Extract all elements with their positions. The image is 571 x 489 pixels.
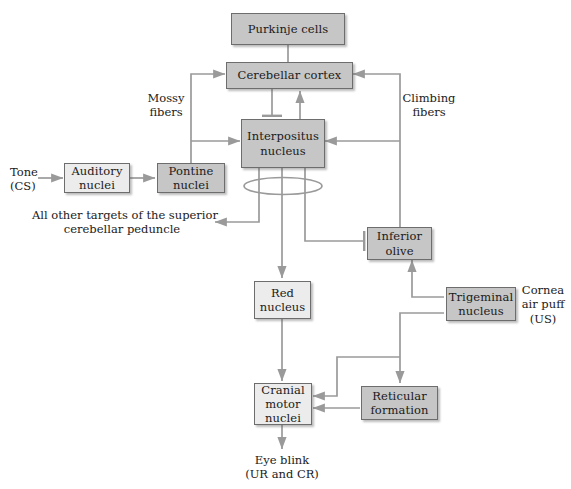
label-cornea-air-puff: Cornea air puff (US): [519, 283, 567, 326]
label-climbing-fibers-line1: Climbing: [398, 91, 460, 105]
node-pontine-nuclei-label-line1: Pontine: [166, 164, 217, 178]
node-reticular-formation-label-line1: Reticular: [369, 389, 430, 403]
label-other-targets: All other targets of the superior cerebe…: [32, 208, 212, 237]
node-purkinje-cells-label: Purkinje cells: [245, 22, 332, 36]
node-cranial-motor-nuclei-label-line3: nuclei: [262, 411, 304, 425]
node-cerebellar-cortex-label: Cerebellar cortex: [235, 68, 345, 82]
label-cornea-air-puff-line2: air puff: [519, 297, 567, 311]
node-reticular-formation-label-line2: formation: [368, 403, 432, 417]
node-inferior-olive-label-line1: Inferior: [374, 229, 425, 243]
edge-trigeminal-to-inferior-olive: [412, 260, 444, 297]
label-tone-cs-line1: Tone: [10, 165, 40, 179]
label-other-targets-line2: cerebellar peduncle: [32, 222, 212, 236]
label-cornea-air-puff-line1: Cornea: [519, 283, 567, 297]
label-other-targets-line1: All other targets of the superior: [32, 208, 212, 222]
label-climbing-fibers: Climbing fibers: [398, 91, 460, 120]
label-eye-blink-line2: (UR and CR): [222, 467, 342, 481]
node-red-nucleus-label-line1: Red: [268, 286, 297, 300]
label-eye-blink: Eye blink (UR and CR): [222, 453, 342, 482]
node-cranial-motor-nuclei[interactable]: Cranial motor nuclei: [254, 383, 312, 425]
edge-pontine-mossy-trunk: [191, 74, 225, 163]
label-mossy-fibers: Mossy fibers: [140, 91, 192, 120]
label-cornea-air-puff-line3: (US): [519, 312, 567, 326]
node-inferior-olive[interactable]: Inferior olive: [367, 227, 432, 260]
node-trigeminal-nucleus[interactable]: Trigeminal nucleus: [446, 287, 516, 321]
node-cerebellar-cortex[interactable]: Cerebellar cortex: [226, 62, 353, 89]
decussation-ellipse: [244, 178, 322, 195]
node-auditory-nuclei-label-line1: Auditory: [68, 164, 125, 178]
label-tone-cs-line2: (CS): [10, 179, 40, 193]
node-interpositus-nucleus-label-line1: Interpositus: [244, 129, 322, 143]
node-interpositus-nucleus-label-line2: nucleus: [257, 144, 309, 158]
node-reticular-formation[interactable]: Reticular formation: [361, 386, 438, 420]
diagram-canvas: Purkinje cells Cerebellar cortex Interpo…: [0, 0, 571, 489]
edge-trigeminal-to-reticular: [400, 313, 444, 383]
node-red-nucleus-label-line2: nucleus: [257, 300, 309, 314]
node-cranial-motor-nuclei-label-line2: motor: [262, 397, 303, 411]
node-cranial-motor-nuclei-label-line1: Cranial: [258, 383, 307, 397]
label-climbing-fibers-line2: fibers: [398, 105, 460, 119]
label-mossy-fibers-line2: fibers: [140, 105, 192, 119]
edge-interpositus-fiber-right: [305, 168, 363, 241]
node-trigeminal-nucleus-label-line1: Trigeminal: [446, 290, 517, 304]
node-auditory-nuclei-label-line2: nuclei: [76, 178, 118, 192]
node-pontine-nuclei-label-line2: nuclei: [170, 178, 212, 192]
edge-climbing-trunk: [353, 74, 400, 227]
node-auditory-nuclei[interactable]: Auditory nuclei: [64, 163, 130, 193]
label-tone-cs: Tone (CS): [10, 165, 40, 194]
node-purkinje-cells[interactable]: Purkinje cells: [231, 13, 345, 45]
label-mossy-fibers-line1: Mossy: [140, 91, 192, 105]
label-eye-blink-line1: Eye blink: [222, 453, 342, 467]
node-interpositus-nucleus[interactable]: Interpositus nucleus: [241, 119, 325, 168]
node-inferior-olive-label-line2: olive: [382, 244, 416, 258]
node-pontine-nuclei[interactable]: Pontine nuclei: [157, 163, 225, 193]
node-trigeminal-nucleus-label-line2: nucleus: [455, 304, 507, 318]
node-red-nucleus[interactable]: Red nucleus: [254, 281, 311, 319]
